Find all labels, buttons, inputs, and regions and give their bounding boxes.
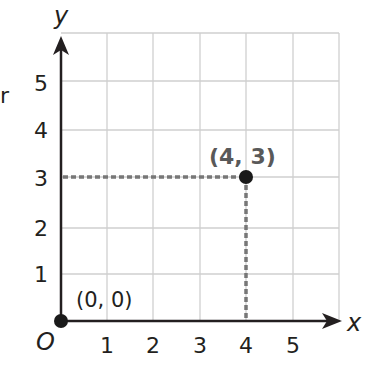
x-ticks: 1 2 3 4 5	[100, 333, 300, 358]
svg-text:5: 5	[286, 333, 300, 358]
svg-text:1: 1	[100, 333, 114, 358]
x-axis-label: x	[346, 309, 362, 337]
svg-text:2: 2	[34, 216, 48, 241]
coordinate-plane: y x O 1 2 3 4 5 1 2 3 4 5 r (0, 0) (4, 3…	[0, 0, 371, 373]
point-label-origin: (0, 0)	[76, 288, 132, 312]
svg-text:1: 1	[34, 262, 48, 287]
svg-text:4: 4	[239, 333, 253, 358]
svg-text:3: 3	[34, 166, 48, 191]
y-axis-label: y	[53, 2, 69, 30]
point-origin	[54, 314, 68, 328]
point-label-4-3: (4, 3)	[209, 144, 276, 169]
origin-label: O	[36, 328, 55, 356]
svg-text:4: 4	[34, 118, 48, 143]
stray-text: r	[0, 83, 10, 108]
axes	[61, 48, 330, 321]
point-4-3	[239, 170, 253, 184]
svg-text:5: 5	[34, 71, 48, 96]
svg-text:3: 3	[193, 333, 207, 358]
svg-text:2: 2	[146, 333, 160, 358]
y-ticks: 1 2 3 4 5	[34, 71, 48, 287]
